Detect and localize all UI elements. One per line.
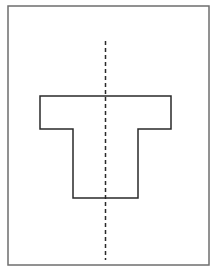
diagram-canvas [0,0,216,269]
outer-frame [8,6,209,265]
